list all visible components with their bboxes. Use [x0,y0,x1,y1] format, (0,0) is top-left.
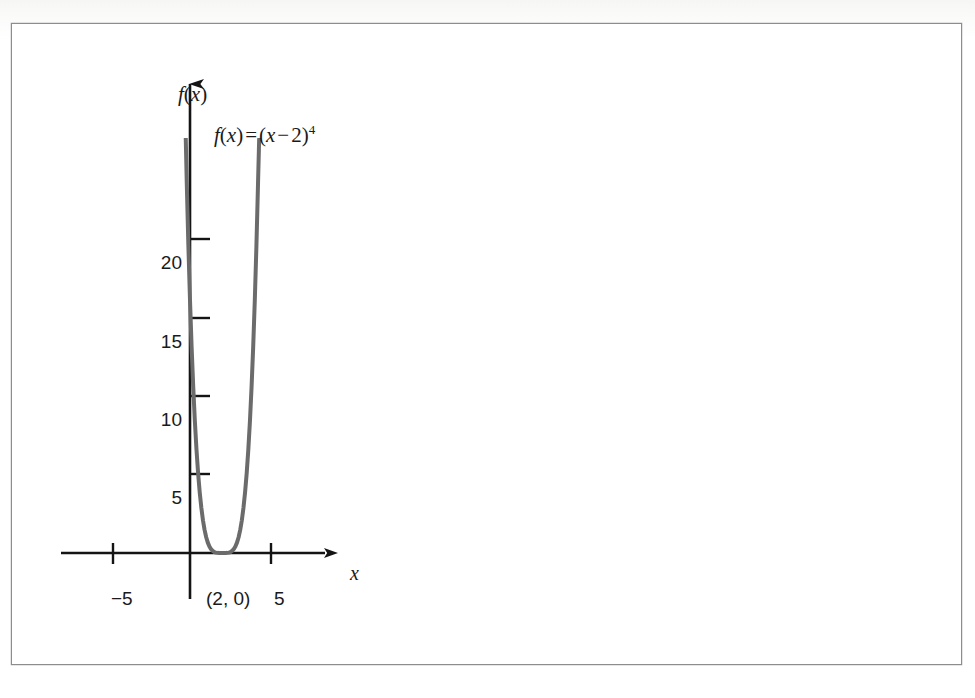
x-tick-label-neg5: −5 [111,589,133,608]
function-curve [185,111,259,553]
equation-annotation: f(x)=(x−2)4 [214,125,315,146]
page-canvas: f(x) x f(x)=(x−2)4 20 15 10 5 −5 5 (2, 0… [0,0,975,698]
y-tick-label-10: 10 [142,410,182,429]
x-axis-group [61,543,325,564]
y-tick-label-20: 20 [142,253,182,272]
y-tick-label-15: 15 [142,332,182,351]
figure-frame: f(x) x f(x)=(x−2)4 20 15 10 5 −5 5 (2, 0… [11,23,962,665]
y-tick-label-5: 5 [142,488,182,507]
vertex-point-label: (2, 0) [206,589,250,608]
y-axis-label: f(x) [178,84,207,105]
x-axis-label: x [350,563,359,583]
x-tick-label-5: 5 [274,589,285,608]
